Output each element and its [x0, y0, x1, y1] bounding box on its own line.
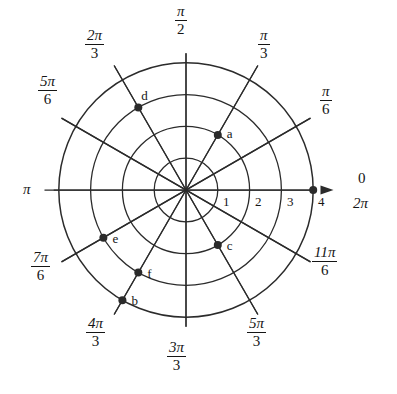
angle-label-11pi-over-6-numerator: 11π — [312, 245, 337, 262]
radial-tick-4: 4 — [318, 195, 325, 208]
data-point-f — [134, 269, 142, 277]
angle-label-11pi-over-6: 11π 6 — [312, 245, 337, 279]
data-point-d — [134, 103, 142, 111]
angle-label-11pi-over-6-denominator: 6 — [312, 262, 337, 278]
polar-coordinate-figure: π 2 2π 3 π 3 5π 6 π 6 π 0 2π 7π 6 — [0, 0, 397, 394]
radial-tick-3: 3 — [287, 195, 294, 208]
angle-label-pi-over-6-denominator: 6 — [320, 101, 332, 117]
angle-label-5pi-over-3-numerator: 5π — [247, 316, 266, 333]
angle-label-zero: 0 — [358, 171, 366, 186]
point-label-c: c — [227, 239, 233, 252]
angle-label-4pi-over-3: 4π 3 — [86, 316, 105, 350]
angle-label-5pi-over-6-numerator: 5π — [38, 74, 57, 91]
point-label-d: d — [141, 89, 148, 102]
angle-label-5pi-over-6: 5π 6 — [38, 74, 57, 108]
angle-label-2pi-over-3: 2π 3 — [85, 28, 104, 62]
angle-label-pi-over-2-denominator: 2 — [175, 21, 187, 37]
angle-label-pi-over-2: π 2 — [175, 4, 187, 38]
angle-label-pi-over-6-numerator: π — [320, 84, 332, 101]
data-point-a — [214, 131, 222, 139]
angle-label-5pi-over-3: 5π 3 — [247, 316, 266, 350]
angle-label-pi-over-6: π 6 — [320, 84, 332, 118]
angle-label-2pi: 2π — [353, 196, 368, 211]
angle-label-5pi-over-3-denominator: 3 — [247, 333, 266, 349]
radial-tick-2: 2 — [255, 195, 262, 208]
point-label-a: a — [227, 127, 233, 140]
data-point-e — [99, 234, 107, 242]
angle-label-3pi-over-3-numerator: 3π — [167, 340, 186, 357]
angle-label-2pi-over-3-numerator: 2π — [85, 28, 104, 45]
point-label-e: e — [112, 232, 118, 245]
angle-label-pi-over-3-numerator: π — [258, 28, 270, 45]
angle-label-2pi-over-3-denominator: 3 — [85, 45, 104, 61]
data-point-c — [214, 241, 222, 249]
angle-label-3pi-over-3: 3π 3 — [167, 340, 186, 374]
point-label-f: f — [147, 267, 151, 280]
angle-label-pi-over-2-numerator: π — [175, 4, 187, 21]
angle-label-pi-over-3: π 3 — [258, 28, 270, 62]
angle-label-pi: π — [23, 182, 31, 197]
angle-label-7pi-over-6-numerator: 7π — [31, 250, 50, 267]
angle-label-7pi-over-6-denominator: 6 — [31, 267, 50, 283]
angle-label-4pi-over-3-denominator: 3 — [86, 333, 105, 349]
angle-label-3pi-over-3-denominator: 3 — [167, 357, 186, 373]
radial-tick-1: 1 — [223, 195, 230, 208]
polar-grid-svg — [0, 0, 397, 394]
angle-label-pi-over-3-denominator: 3 — [258, 45, 270, 61]
data-point-unlabeled-0 — [309, 186, 317, 194]
angle-label-7pi-over-6: 7π 6 — [31, 250, 50, 284]
angle-label-4pi-over-3-numerator: 4π — [86, 316, 105, 333]
data-point-b — [118, 296, 126, 304]
point-label-b: b — [131, 294, 138, 307]
angle-label-5pi-over-6-denominator: 6 — [38, 91, 57, 107]
